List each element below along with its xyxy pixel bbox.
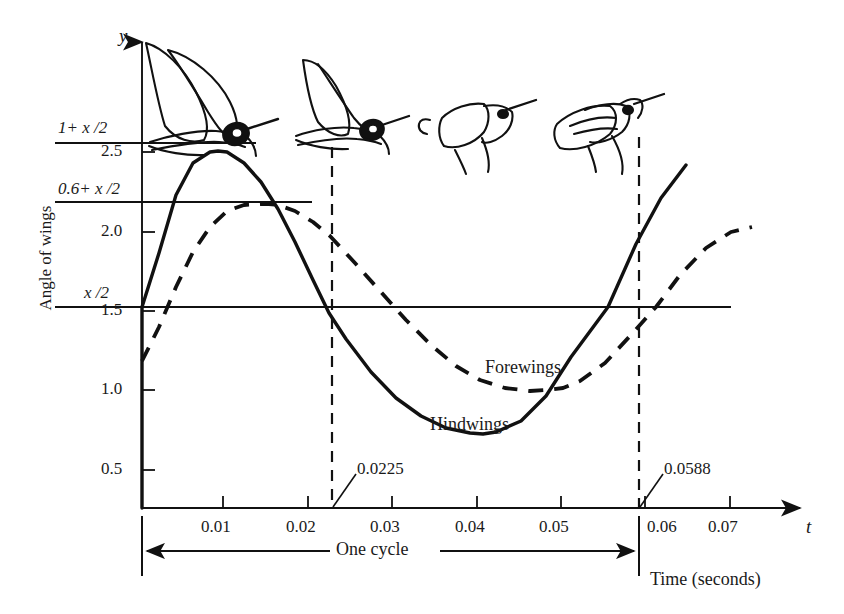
x-axis-title: Time (seconds) [650, 570, 761, 588]
x-axis-symbol: t [806, 517, 811, 536]
hindwings-curve [142, 151, 686, 508]
y-tick-label-1-5: 1.5 [101, 301, 122, 318]
hindwings-label: Hindwings [430, 415, 509, 433]
wing-angle-figure: y t Angle of wings Time (seconds) 1+ x /… [0, 0, 844, 614]
cycle-label: One cycle [336, 540, 408, 558]
forewings-curve [142, 204, 752, 391]
x-tick-label-0-06: 0.06 [647, 518, 677, 535]
x-tick-label-0-01: 0.01 [201, 518, 231, 535]
x-axis-ticks [223, 496, 730, 508]
annotation-0225: 0.0225 [357, 460, 404, 477]
reference-label-2: 0.6+ x /2 [58, 180, 120, 197]
x-tick-label-0-05: 0.05 [539, 518, 569, 535]
insect-drawing-1 [146, 43, 278, 156]
leader-line-0225 [333, 474, 356, 507]
y-tick-label-1-0: 1.0 [101, 380, 122, 397]
x-tick-label-0-07: 0.07 [708, 518, 738, 535]
y-axis-title: Angle of wings [36, 168, 56, 348]
forewings-label: Forewings [485, 358, 561, 376]
insect-drawing-3 [419, 100, 536, 174]
x-tick-label-0-04: 0.04 [455, 518, 485, 535]
reference-label-1: 1+ x /2 [58, 119, 107, 136]
y-axis-symbol: y [119, 26, 127, 45]
x-tick-label-0-03: 0.03 [370, 518, 400, 535]
y-tick-label-0-5: 0.5 [101, 460, 122, 477]
insect-drawing-4 [554, 94, 664, 174]
reference-label-3: x /2 [84, 284, 109, 301]
y-tick-label-2-5: 2.5 [101, 142, 122, 159]
x-tick-label-0-02: 0.02 [286, 518, 316, 535]
y-axis-ticks [142, 152, 155, 470]
y-tick-label-2-0: 2.0 [101, 222, 122, 239]
insect-drawing-2 [296, 60, 409, 154]
leader-line-0588 [640, 474, 663, 507]
annotation-0588: 0.0588 [664, 460, 711, 477]
